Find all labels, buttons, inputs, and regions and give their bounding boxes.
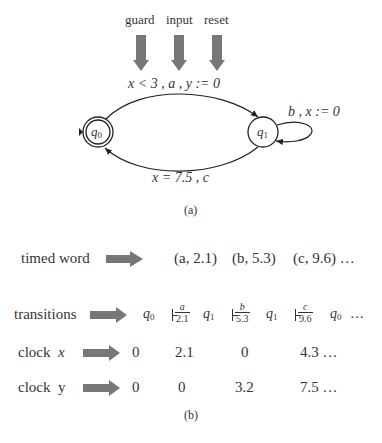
- transition-step-1: a2.1: [175, 302, 190, 324]
- edge-q0-to-q1: [106, 94, 258, 119]
- clock-x-value-1: 0: [132, 344, 140, 361]
- timed-word-item-3: (c, 9.6) …: [293, 250, 355, 267]
- caption-a: (a): [184, 203, 197, 218]
- clock-y-value-3: 3.2: [235, 379, 254, 396]
- clock-x-value-2: 2.1: [175, 344, 194, 361]
- edge-label-q1-q0: x = 7.5 , c: [152, 170, 209, 186]
- annotation-input: input: [166, 12, 193, 28]
- transition-step-2: b5.3: [235, 302, 250, 324]
- reset-down-arrow: [209, 35, 225, 71]
- automaton-diagram: [0, 0, 382, 443]
- clock-x-label: clock x: [18, 344, 65, 361]
- annotation-reset: reset: [204, 12, 229, 28]
- run-state-3: q1: [266, 306, 278, 322]
- timed-word-item-1: (a, 2.1): [174, 250, 217, 267]
- state-label-q0: q0: [91, 124, 102, 140]
- edge-label-q0-q1: x < 3 , a , y := 0: [128, 76, 220, 92]
- run-state-4: q0: [330, 306, 342, 322]
- clock-y-value-1: 0: [132, 379, 140, 396]
- clock-x-value-3: 0: [241, 344, 249, 361]
- clock-x-value-4: 4.3 …: [300, 344, 338, 361]
- transitions-ellipsis: …: [350, 306, 364, 322]
- state-label-q1: q1: [257, 124, 268, 140]
- input-down-arrow: [171, 35, 187, 71]
- clock-y-value-2: 0: [178, 379, 186, 396]
- edge-label-q1-self: b , x := 0: [288, 104, 340, 120]
- guard-down-arrow: [133, 35, 149, 71]
- caption-b: (b): [184, 408, 198, 423]
- clock-y-arrow: [83, 380, 120, 396]
- run-state-2: q1: [203, 306, 215, 322]
- edge-q1-to-q0: [105, 147, 258, 171]
- edge-q1-self-loop: [276, 122, 312, 141]
- transition-step-3: c9.6: [298, 302, 313, 324]
- clock-y-value-4: 7.5 …: [300, 379, 338, 396]
- clock-y-label: clock y: [18, 379, 65, 396]
- clock-x-arrow: [83, 345, 120, 361]
- annotation-guard: guard: [125, 12, 155, 28]
- timed-word-arrow: [106, 251, 143, 267]
- transitions-arrow: [90, 307, 127, 323]
- initial-arrow-icon: [79, 128, 83, 136]
- timed-word-label: timed word: [21, 250, 90, 267]
- timed-word-item-2: (b, 5.3): [232, 250, 276, 267]
- run-state-1: q0: [143, 306, 155, 322]
- transitions-label: transitions: [14, 306, 77, 323]
